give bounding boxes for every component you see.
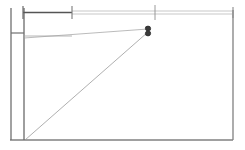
diagonal-sight-line: [25, 32, 148, 140]
vertex-marker-group: [145, 26, 151, 36]
line-drawing-svg: [0, 0, 245, 150]
vertex-marker-lower: [145, 31, 150, 36]
sight-line-group: [24, 29, 148, 140]
upper-sight-line: [24, 29, 148, 38]
top-dimension-run: [23, 5, 233, 20]
vertex-marker-upper: [145, 26, 150, 31]
technical-drawing-canvas: [0, 0, 245, 150]
